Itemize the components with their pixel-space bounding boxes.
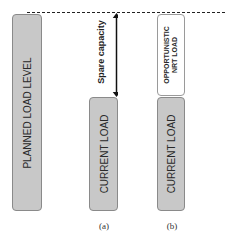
- opportunistic-line-1: OPPORTUNISTIC: [163, 26, 170, 84]
- planned-load-label: PLANNED LOAD LEVEL: [22, 57, 33, 168]
- current-load-label-a: CURRENT LOAD: [98, 115, 109, 194]
- opportunistic-load-box: OPPORTUNISTIC NRT LOAD: [157, 14, 185, 96]
- opportunistic-load-label: OPPORTUNISTIC NRT LOAD: [163, 26, 179, 84]
- planned-level-dashed-line: [27, 12, 225, 13]
- current-load-bar-b: CURRENT LOAD: [157, 97, 185, 211]
- planned-load-bar: PLANNED LOAD LEVEL: [12, 14, 42, 211]
- spare-capacity-label: Spare capacity: [96, 20, 106, 84]
- caption-a: (a): [99, 221, 109, 231]
- caption-b: (b): [167, 221, 178, 231]
- spare-capacity-arrow-icon: [112, 13, 118, 97]
- current-load-bar-a: CURRENT LOAD: [89, 97, 118, 211]
- opportunistic-line-2: NRT LOAD: [171, 37, 178, 73]
- current-load-label-b: CURRENT LOAD: [166, 115, 177, 194]
